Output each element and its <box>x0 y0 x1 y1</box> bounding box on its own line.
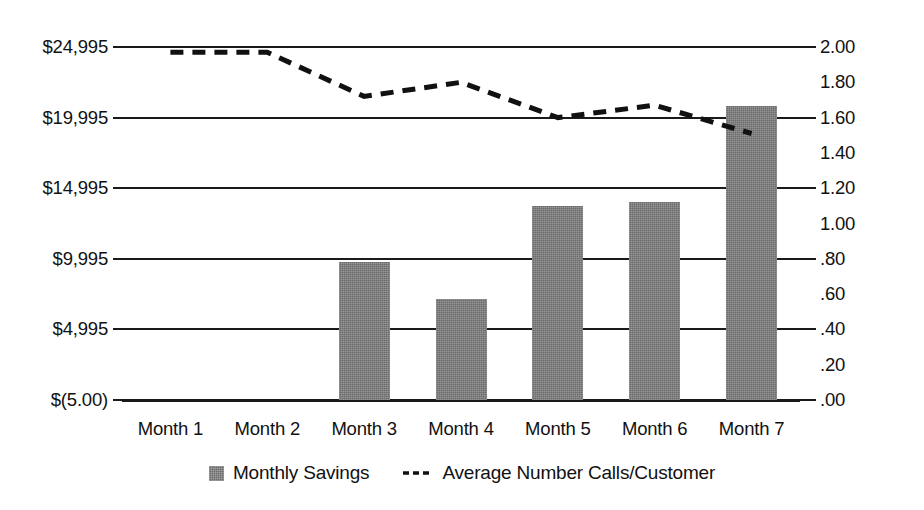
x-axis-tick-label: Month 6 <box>622 418 687 440</box>
y-axis-left-tick <box>113 399 125 401</box>
gridline <box>122 258 800 260</box>
gridline <box>122 46 800 48</box>
y-axis-right-tick-label: 1.20 <box>820 177 855 199</box>
y-axis-left-tick <box>113 258 125 260</box>
legend-label-average-calls: Average Number Calls/Customer <box>442 462 715 484</box>
bar <box>339 262 390 400</box>
y-axis-right-tick-label: .00 <box>820 389 845 411</box>
bar <box>629 202 680 400</box>
gridline <box>122 117 800 119</box>
y-axis-right-tick <box>800 46 816 48</box>
y-axis-right-tick-label: .40 <box>820 318 845 340</box>
y-axis-right-tick <box>800 187 816 189</box>
y-axis-left-tick-label: $19,995 <box>0 107 108 129</box>
bar <box>532 206 583 400</box>
x-axis-tick-label: Month 3 <box>331 418 396 440</box>
dashed-line-swatch-icon <box>403 466 433 480</box>
chart-container: $24,995$19,995$14,995$9,995$4,995$(5.00)… <box>0 0 924 510</box>
filled-square-swatch-icon <box>209 466 224 481</box>
x-axis-tick-label: Month 5 <box>525 418 590 440</box>
y-axis-left-tick-label: $24,995 <box>0 36 108 58</box>
y-axis-right-tick-label: 1.80 <box>820 71 855 93</box>
y-axis-left-tick-label: $(5.00) <box>0 389 108 411</box>
y-axis-right-tick-label: 1.00 <box>820 213 855 235</box>
y-axis-left-tick-label: $14,995 <box>0 177 108 199</box>
bar <box>726 106 777 400</box>
y-axis-left-tick-label: $9,995 <box>0 248 108 270</box>
y-axis-right-tick-label: .60 <box>820 283 845 305</box>
y-axis-left-tick <box>113 328 125 330</box>
y-axis-right-tick-label: 2.00 <box>820 36 855 58</box>
y-axis-right-tick <box>800 328 816 330</box>
y-axis-right-tick-label: 1.40 <box>820 142 855 164</box>
y-axis-right-tick <box>800 117 816 119</box>
legend-item-average-calls: Average Number Calls/Customer <box>403 462 715 484</box>
legend-item-monthly-savings: Monthly Savings <box>209 462 369 484</box>
x-axis-tick-label: Month 4 <box>428 418 493 440</box>
y-axis-right-tick <box>800 399 816 401</box>
gridline <box>122 187 800 189</box>
y-axis-right-tick-label: .80 <box>820 248 845 270</box>
y-axis-left-tick <box>113 46 125 48</box>
y-axis-left-tick <box>113 187 125 189</box>
x-axis-tick-label: Month 7 <box>719 418 784 440</box>
x-axis-tick-label: Month 1 <box>138 418 203 440</box>
legend-label-monthly-savings: Monthly Savings <box>233 462 369 484</box>
y-axis-left-tick-label: $4,995 <box>0 318 108 340</box>
x-axis-tick-label: Month 2 <box>235 418 300 440</box>
chart-legend: Monthly Savings Average Number Calls/Cus… <box>0 462 924 484</box>
bar <box>436 299 487 400</box>
y-axis-right-tick <box>800 258 816 260</box>
y-axis-right-tick-label: .20 <box>820 354 845 376</box>
y-axis-left-tick <box>113 117 125 119</box>
y-axis-right-tick-label: 1.60 <box>820 107 855 129</box>
